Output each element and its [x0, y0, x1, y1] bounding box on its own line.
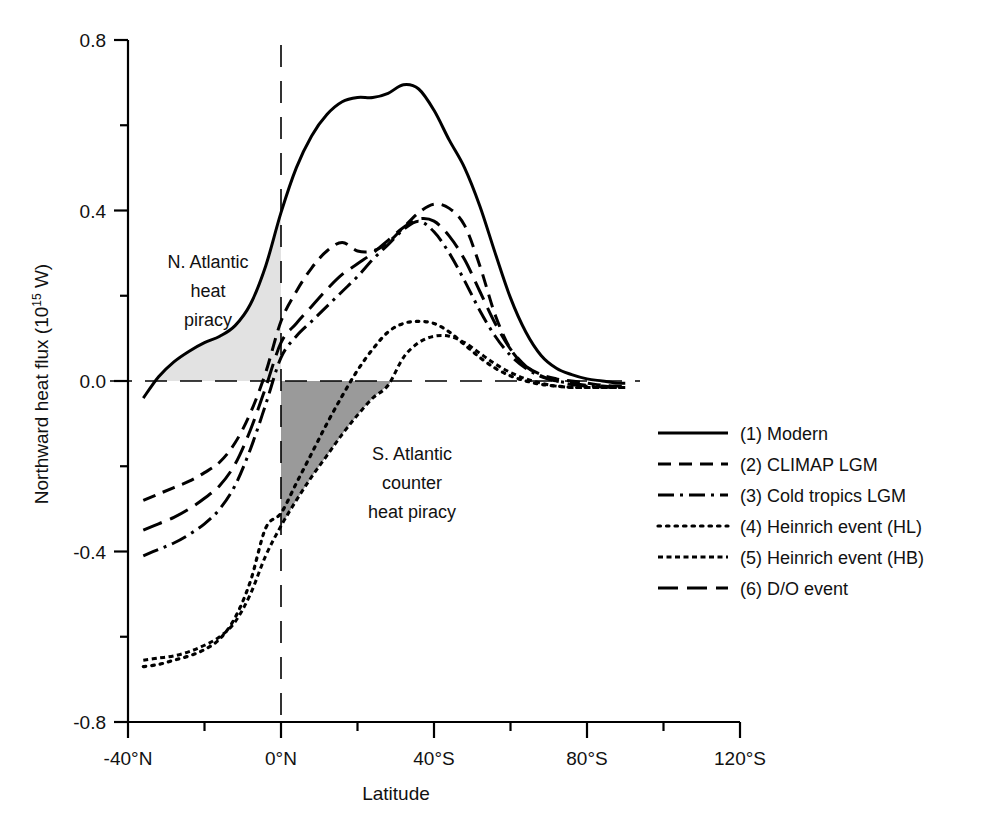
y-tick-label: -0.4 — [73, 542, 106, 563]
y-axis-title-main: Northward heat flux (10 — [31, 307, 52, 505]
annotation-line: piracy — [184, 310, 232, 330]
heat-flux-line-chart: 0.80.40.0-0.4-0.8 -40°N0°N40°S80°S120°S … — [0, 0, 992, 836]
x-tick-label: -40°N — [104, 748, 153, 769]
annotation-line: S. Atlantic — [372, 444, 452, 464]
chart-background — [0, 0, 992, 836]
x-axis-title: Latitude — [362, 783, 430, 804]
x-tick-label: 40°S — [413, 748, 454, 769]
y-tick-label: 0.4 — [80, 201, 107, 222]
y-tick-label: 0.0 — [80, 371, 106, 392]
legend-label-4: (4) Heinrich event (HL) — [740, 517, 922, 537]
legend-label-2: (2) CLIMAP LGM — [740, 455, 878, 475]
annotation-line: counter — [382, 473, 442, 493]
y-tick-label: -0.8 — [73, 712, 106, 733]
legend-label-1: (1) Modern — [740, 424, 828, 444]
y-tick-label: 0.8 — [80, 30, 106, 51]
legend-label-5: (5) Heinrich event (HB) — [740, 548, 924, 568]
annotation-line: heat piracy — [368, 502, 456, 522]
y-axis-title-tail: W) — [31, 264, 52, 294]
figure-container: 0.80.40.0-0.4-0.8 -40°N0°N40°S80°S120°S … — [0, 0, 992, 836]
x-tick-label: 120°S — [714, 748, 766, 769]
annotation-line: N. Atlantic — [167, 252, 248, 272]
y-axis-title-superscript: 15 — [30, 293, 44, 307]
legend-label-3: (3) Cold tropics LGM — [740, 486, 906, 506]
x-tick-label: 80°S — [566, 748, 607, 769]
legend-label-6: (6) D/O event — [740, 579, 848, 599]
annotation-line: heat — [190, 281, 225, 301]
x-tick-label: 0°N — [265, 748, 297, 769]
